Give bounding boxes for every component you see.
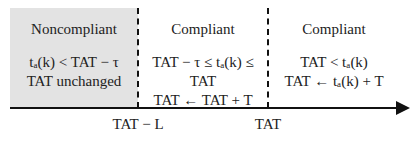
region-title: Compliant bbox=[139, 20, 267, 39]
region-condition: TAT − τ ≤ tₐ(k) ≤ TAT bbox=[139, 53, 267, 91]
region-action: TAT unchanged bbox=[10, 72, 138, 91]
region-title: Noncompliant bbox=[10, 20, 138, 39]
tick-label-tat: TAT bbox=[255, 116, 281, 133]
region-condition: tₐ(k) < TAT − τ bbox=[10, 53, 138, 72]
region-action: TAT ← tₐ(k) + T bbox=[269, 72, 399, 91]
region-title: Compliant bbox=[269, 20, 399, 39]
axis-arrow-icon bbox=[396, 101, 410, 115]
region-compliant-right: Compliant TAT < tₐ(k) TAT ← tₐ(k) + T bbox=[269, 20, 399, 91]
tick-label-tat-minus-l: TAT − L bbox=[112, 116, 163, 133]
region-condition: TAT < tₐ(k) bbox=[269, 53, 399, 72]
region-noncompliant: Noncompliant tₐ(k) < TAT − τ TAT unchang… bbox=[10, 20, 138, 91]
region-compliant-middle: Compliant TAT − τ ≤ tₐ(k) ≤ TAT TAT ← TA… bbox=[139, 20, 267, 110]
region-action: TAT ← TAT + T bbox=[139, 91, 267, 110]
